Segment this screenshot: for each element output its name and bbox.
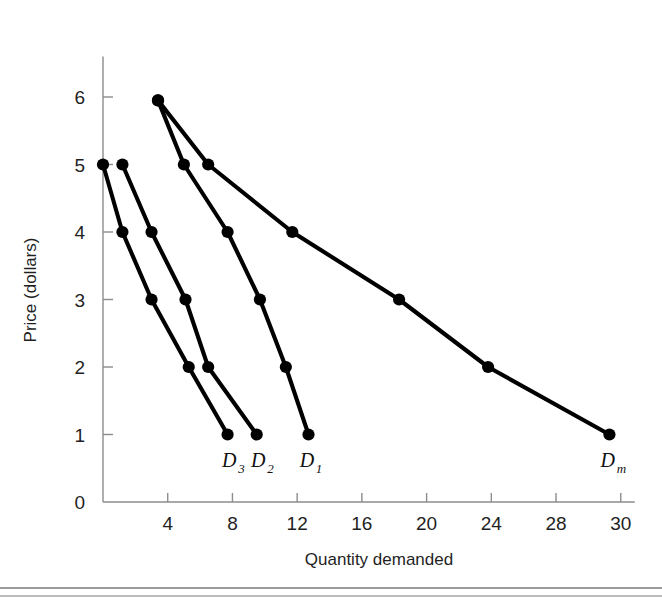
y-axis-title: Price (dollars) bbox=[21, 238, 40, 343]
data-point-Dm bbox=[286, 226, 298, 238]
curve-label-D3: D bbox=[221, 449, 237, 471]
data-point-D2 bbox=[179, 293, 191, 305]
x-tick-label-30: 30 bbox=[610, 513, 631, 534]
curve-label-subscript-Dm: m bbox=[617, 461, 626, 476]
curve-label-subscript-D3: 3 bbox=[237, 461, 245, 476]
y-tick-label-3: 3 bbox=[74, 290, 85, 311]
x-axis-title: Quantity demanded bbox=[305, 550, 453, 569]
data-point-D1 bbox=[280, 361, 292, 373]
x-tick-label-24: 24 bbox=[481, 513, 503, 534]
y-tick-label-1: 1 bbox=[74, 425, 85, 446]
demand-curve-chart: 48121620242830 0123456 D3D2D1Dm Quantity… bbox=[0, 0, 662, 604]
data-point-Dm bbox=[152, 94, 164, 106]
data-point-D3 bbox=[97, 158, 109, 170]
x-tick-label-16: 16 bbox=[351, 513, 372, 534]
y-tick-label-2: 2 bbox=[74, 357, 85, 378]
curve-label-Dm: D bbox=[600, 449, 616, 471]
x-tick-label-12: 12 bbox=[287, 513, 308, 534]
y-tick-label-0: 0 bbox=[74, 492, 85, 513]
data-point-D3 bbox=[116, 226, 128, 238]
data-point-Dm bbox=[603, 428, 615, 440]
data-point-D3 bbox=[145, 293, 157, 305]
x-tick-label-4: 4 bbox=[162, 513, 173, 534]
data-point-D1 bbox=[254, 293, 266, 305]
data-point-D1 bbox=[178, 158, 190, 170]
x-tick-label-20: 20 bbox=[416, 513, 437, 534]
data-point-D2 bbox=[202, 361, 214, 373]
data-point-D1 bbox=[302, 428, 314, 440]
y-tick-label-4: 4 bbox=[74, 222, 85, 243]
data-point-D2 bbox=[251, 428, 263, 440]
y-tick-label-6: 6 bbox=[74, 87, 85, 108]
x-tick-label-8: 8 bbox=[227, 513, 238, 534]
data-point-Dm bbox=[202, 158, 214, 170]
data-point-D1 bbox=[221, 226, 233, 238]
y-tick-label-5: 5 bbox=[74, 155, 85, 176]
data-point-D2 bbox=[145, 226, 157, 238]
curve-label-D2: D bbox=[250, 449, 266, 471]
curve-label-D1: D bbox=[299, 449, 315, 471]
data-point-D3 bbox=[183, 361, 195, 373]
data-point-D3 bbox=[221, 428, 233, 440]
data-point-Dm bbox=[482, 361, 494, 373]
curve-label-subscript-D1: 1 bbox=[316, 461, 323, 476]
curve-label-subscript-D2: 2 bbox=[267, 461, 274, 476]
data-point-D2 bbox=[116, 158, 128, 170]
demand-curve-figure: 48121620242830 0123456 D3D2D1Dm Quantity… bbox=[0, 0, 662, 604]
data-point-Dm bbox=[393, 293, 405, 305]
x-tick-label-28: 28 bbox=[545, 513, 566, 534]
